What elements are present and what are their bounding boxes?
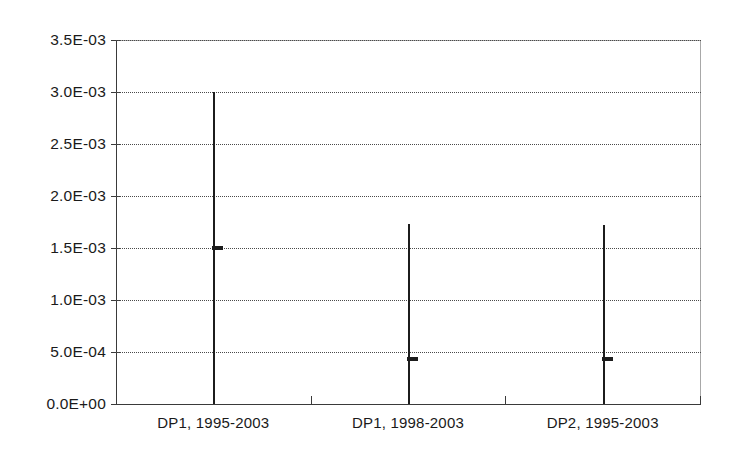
x-axis-tick [311, 396, 312, 405]
y-axis-tick-label: 3.0E-03 [12, 84, 106, 100]
y-axis-tick-label: 1.0E-03 [12, 292, 106, 308]
high-low-bar [408, 224, 410, 404]
x-axis-line [116, 404, 701, 405]
gridline-y [116, 144, 701, 145]
x-axis-tick [700, 396, 701, 405]
y-axis-tick-label-text: 3.5E-03 [18, 32, 106, 48]
gridline-y [116, 92, 701, 93]
chart-figure: 0.0E+005.0E-041.0E-031.5E-032.0E-032.5E-… [0, 0, 734, 461]
gridline-y [116, 196, 701, 197]
x-axis-tick [505, 396, 506, 405]
value-marker [212, 246, 223, 250]
y-axis-tick-label-text: 1.0E-03 [18, 292, 106, 308]
y-axis-tick-label: 3.5E-03 [12, 32, 106, 48]
y-axis-tick-label-text: 1.5E-03 [18, 240, 106, 256]
plot-frame-right [700, 40, 701, 405]
y-axis-tick-label-text: 3.0E-03 [18, 84, 106, 100]
x-axis-category-label: DP2, 1995-2003 [505, 414, 700, 432]
value-marker [602, 357, 613, 361]
y-axis-tick-label-text: 0.0E+00 [18, 396, 106, 412]
gridline-y [116, 40, 701, 41]
y-axis-tick-label: 2.5E-03 [12, 136, 106, 152]
y-axis-tick-label-text: 2.0E-03 [18, 188, 106, 204]
y-axis-tick-label-text: 5.0E-04 [18, 344, 106, 360]
y-axis-tick-label-text: 2.5E-03 [18, 136, 106, 152]
y-axis-line [116, 40, 117, 405]
x-axis-category-label: DP1, 1995-2003 [116, 414, 311, 432]
x-axis-tick [116, 396, 117, 405]
y-axis-tick-label: 2.0E-03 [12, 188, 106, 204]
y-axis-tick-label: 1.5E-03 [12, 240, 106, 256]
x-axis-category-label: DP1, 1998-2003 [311, 414, 506, 432]
value-marker [407, 357, 418, 361]
high-low-bar [603, 225, 605, 404]
y-axis-tick-label: 5.0E-04 [12, 344, 106, 360]
y-axis-tick-label: 0.0E+00 [12, 396, 106, 412]
